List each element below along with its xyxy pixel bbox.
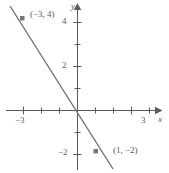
data-point-marker [20, 16, 25, 21]
y-tick-label-4: 4 [62, 17, 67, 26]
x-tick-label-negative-3: −3 [15, 116, 25, 125]
y-tick-label-2: 2 [62, 61, 67, 70]
plotted-line [10, 6, 113, 169]
x-axis-label: x [158, 115, 162, 124]
graph-figure: y x 4 2 −2 −3 3 (−3, 4) (1, −2) [0, 0, 169, 173]
data-point-marker [94, 149, 99, 154]
x-tick-label-3: 3 [141, 116, 146, 125]
coordinate-plane [0, 0, 169, 173]
point-a-label: (−3, 4) [30, 10, 55, 19]
y-axis-label: y [71, 2, 75, 11]
y-tick-label-negative-2: −2 [58, 148, 68, 157]
point-b-label: (1, −2) [113, 146, 138, 155]
